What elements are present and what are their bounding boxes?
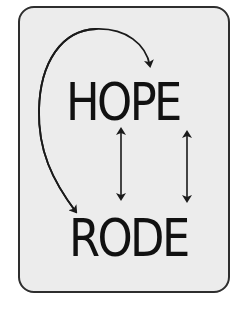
top-word: HOPE: [66, 76, 180, 128]
bottom-word: RODE: [69, 212, 188, 264]
